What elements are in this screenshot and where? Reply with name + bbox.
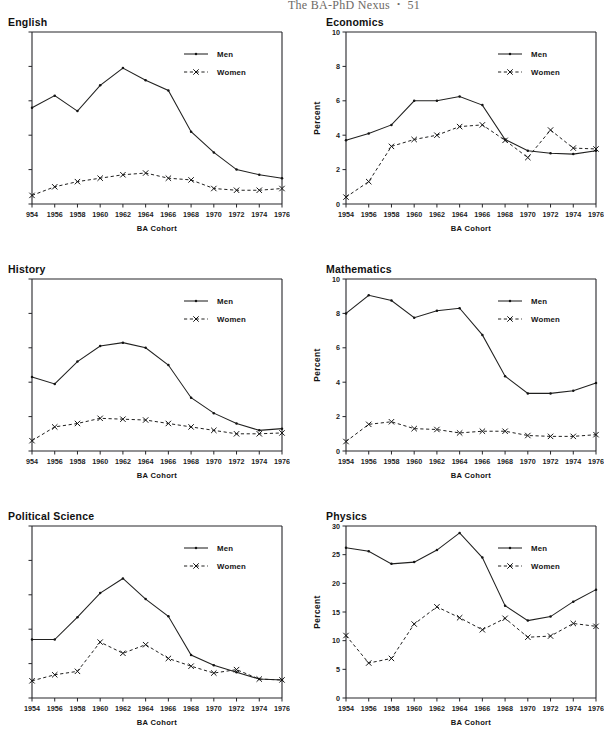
svg-text:4: 4	[336, 378, 340, 387]
svg-text:1966: 1966	[474, 210, 490, 219]
svg-text:1968: 1968	[183, 704, 199, 713]
svg-text:1970: 1970	[520, 210, 536, 219]
svg-text:1958: 1958	[69, 704, 85, 713]
svg-text:15: 15	[332, 608, 340, 617]
svg-text:Percent: Percent	[312, 101, 322, 135]
svg-text:1968: 1968	[497, 210, 513, 219]
svg-text:1962: 1962	[115, 704, 131, 713]
svg-text:1966: 1966	[160, 210, 176, 219]
svg-text:1974: 1974	[565, 457, 581, 466]
chart-panel-history: History 95419561958196019621964196619681…	[0, 261, 290, 508]
svg-text:1968: 1968	[497, 704, 513, 713]
svg-text:10: 10	[332, 275, 340, 284]
svg-text:Women: Women	[531, 562, 560, 571]
svg-text:1974: 1974	[251, 457, 267, 466]
chart-panel-economics: Economics 0246810Percent1954195619581960…	[300, 14, 604, 261]
svg-text:2: 2	[336, 412, 340, 421]
svg-text:1976: 1976	[588, 457, 604, 466]
svg-text:10: 10	[332, 28, 340, 37]
chart-panel-english: English 95419561958196019621964196619681…	[0, 14, 290, 261]
svg-text:954: 954	[26, 210, 38, 219]
svg-text:1954: 1954	[24, 704, 40, 713]
svg-text:1960: 1960	[406, 704, 422, 713]
svg-text:1962: 1962	[115, 210, 131, 219]
svg-text:1968: 1968	[183, 457, 199, 466]
svg-text:1970: 1970	[206, 457, 222, 466]
svg-text:1964: 1964	[452, 704, 468, 713]
svg-text:Men: Men	[531, 50, 547, 59]
svg-text:5: 5	[336, 665, 340, 674]
svg-text:1956: 1956	[47, 457, 63, 466]
svg-text:Men: Men	[217, 50, 233, 59]
svg-text:1972: 1972	[229, 210, 245, 219]
svg-text:1964: 1964	[138, 210, 154, 219]
svg-text:1972: 1972	[543, 210, 559, 219]
svg-text:1968: 1968	[497, 457, 513, 466]
svg-text:BA Cohort: BA Cohort	[451, 718, 492, 727]
svg-text:1976: 1976	[274, 704, 290, 713]
svg-text:1954: 1954	[338, 210, 354, 219]
svg-text:30: 30	[332, 522, 340, 531]
svg-text:6: 6	[336, 343, 340, 352]
svg-text:954: 954	[26, 457, 38, 466]
svg-text:20: 20	[332, 579, 340, 588]
svg-text:Women: Women	[531, 315, 560, 324]
svg-text:Percent: Percent	[312, 595, 322, 629]
svg-text:4: 4	[336, 131, 340, 140]
svg-text:0: 0	[336, 694, 340, 703]
page-number: 51	[407, 0, 420, 12]
svg-text:1960: 1960	[406, 457, 422, 466]
svg-text:1976: 1976	[588, 210, 604, 219]
svg-text:1958: 1958	[383, 210, 399, 219]
svg-text:1954: 1954	[338, 457, 354, 466]
svg-text:Women: Women	[217, 562, 246, 571]
svg-text:1956: 1956	[47, 704, 63, 713]
plot-area-physics: 051015202530Percent195419561958196019621…	[300, 508, 604, 755]
svg-text:1960: 1960	[92, 457, 108, 466]
svg-text:1962: 1962	[429, 704, 445, 713]
svg-text:1972: 1972	[229, 704, 245, 713]
svg-text:1962: 1962	[115, 457, 131, 466]
svg-text:8: 8	[336, 62, 340, 71]
svg-text:Women: Women	[531, 68, 560, 77]
svg-text:1964: 1964	[452, 457, 468, 466]
chart-svg-history: 9541956195819601962196419661968197019721…	[0, 261, 290, 508]
svg-text:2: 2	[336, 165, 340, 174]
page-running-header: The BA-PhD Nexus•51	[0, 0, 608, 12]
svg-text:0: 0	[336, 447, 340, 456]
svg-text:0: 0	[336, 200, 340, 209]
svg-text:1966: 1966	[474, 704, 490, 713]
svg-text:1966: 1966	[160, 457, 176, 466]
svg-text:1972: 1972	[543, 704, 559, 713]
svg-text:Percent: Percent	[312, 348, 322, 382]
chart-panel-political-science: Political Science 1954195619581960196219…	[0, 508, 290, 755]
svg-text:BA Cohort: BA Cohort	[137, 471, 178, 480]
svg-text:1970: 1970	[520, 704, 536, 713]
svg-text:1964: 1964	[138, 704, 154, 713]
svg-text:1974: 1974	[565, 210, 581, 219]
plot-area-political-science: 1954195619581960196219641966196819701972…	[0, 508, 290, 755]
svg-text:1962: 1962	[429, 210, 445, 219]
svg-text:1968: 1968	[183, 210, 199, 219]
svg-text:1972: 1972	[229, 457, 245, 466]
svg-text:Women: Women	[217, 315, 246, 324]
svg-text:1976: 1976	[274, 457, 290, 466]
svg-text:1970: 1970	[520, 457, 536, 466]
svg-text:1964: 1964	[452, 210, 468, 219]
svg-text:1970: 1970	[206, 210, 222, 219]
svg-text:1974: 1974	[565, 704, 581, 713]
svg-text:1958: 1958	[383, 704, 399, 713]
svg-text:1956: 1956	[361, 457, 377, 466]
svg-text:1960: 1960	[92, 704, 108, 713]
svg-text:Men: Men	[217, 297, 233, 306]
svg-text:1974: 1974	[251, 210, 267, 219]
chart-svg-physics: 051015202530Percent195419561958196019621…	[300, 508, 604, 755]
svg-text:1970: 1970	[206, 704, 222, 713]
svg-text:8: 8	[336, 309, 340, 318]
svg-text:1966: 1966	[474, 457, 490, 466]
svg-text:10: 10	[332, 636, 340, 645]
svg-text:BA Cohort: BA Cohort	[137, 224, 178, 233]
svg-text:1960: 1960	[406, 210, 422, 219]
chart-svg-english: 9541956195819601962196419661968197019721…	[0, 14, 290, 261]
header-separator: •	[390, 0, 407, 9]
